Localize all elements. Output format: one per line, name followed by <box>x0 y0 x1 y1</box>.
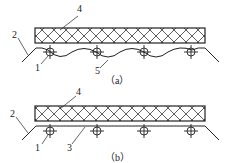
label-1b: 1 <box>35 143 40 153</box>
label-1a: 1 <box>35 63 40 73</box>
label-4b: 4 <box>76 87 81 97</box>
caption-b: （b） <box>105 153 130 163</box>
caption-a: （a） <box>105 76 129 86</box>
corrugated-sheet <box>22 48 219 62</box>
figure-b <box>16 96 219 144</box>
label-4a: 4 <box>77 4 82 14</box>
insulation-block <box>35 28 205 43</box>
label-2b: 2 <box>10 109 15 119</box>
label-5a: 5 <box>95 66 100 76</box>
label-3b: 3 <box>67 143 72 153</box>
label-2a: 2 <box>12 30 17 40</box>
flat-sheet <box>22 126 219 140</box>
figure-a <box>18 16 219 68</box>
